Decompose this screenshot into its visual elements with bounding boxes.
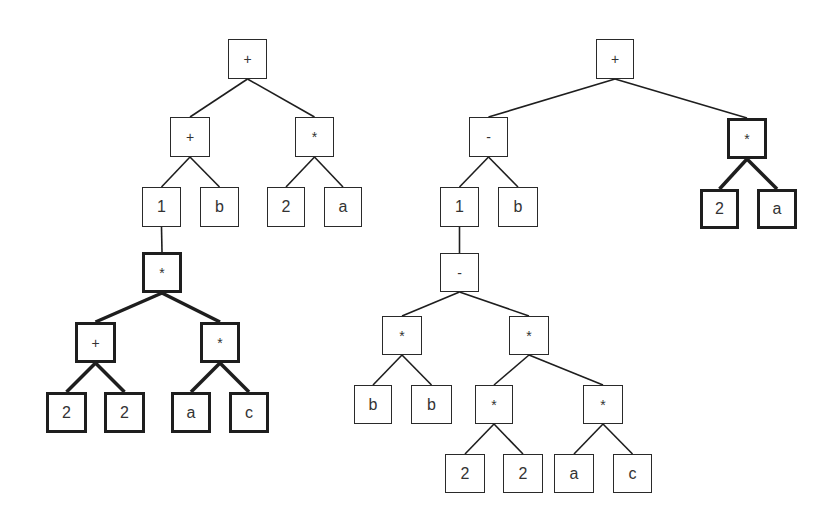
operator-node: + — [596, 39, 634, 79]
tree-edge — [190, 157, 220, 187]
tree-edge — [402, 292, 460, 316]
operand-node: 2 — [104, 392, 145, 433]
tree-edge — [220, 363, 249, 392]
tree-edge — [162, 157, 191, 187]
tree-edge — [286, 157, 315, 187]
tree-edge — [96, 363, 125, 392]
operand-node: b — [411, 385, 452, 424]
operator-node: * — [727, 118, 767, 159]
operator-node: * — [295, 117, 334, 157]
operand-node: 2 — [46, 392, 87, 433]
operand-node: 1 — [440, 187, 479, 227]
operand-node: b — [354, 385, 392, 424]
operator-node: + — [75, 322, 116, 363]
tree-edge — [615, 79, 747, 118]
operator-node: + — [170, 117, 210, 157]
operand-node: 2 — [700, 189, 739, 229]
tree-edge — [67, 363, 96, 392]
tree-edge — [489, 79, 616, 117]
tree-edge — [720, 159, 748, 189]
tree-edge — [162, 227, 163, 252]
tree-edge — [603, 424, 633, 454]
tree-edge — [96, 293, 163, 322]
operator-node: * — [475, 385, 513, 424]
tree-edge — [315, 157, 344, 187]
operator-node: - — [469, 117, 508, 157]
operator-node: * — [200, 322, 240, 363]
operator-node: - — [440, 253, 479, 292]
operand-node: 2 — [267, 187, 305, 227]
tree-edge — [489, 157, 519, 187]
operand-node: 2 — [445, 454, 485, 493]
operand-node: a — [554, 454, 594, 493]
operator-node: * — [583, 385, 623, 424]
tree-edge — [460, 157, 489, 187]
tree-edge — [190, 79, 248, 117]
tree-edge — [747, 159, 777, 189]
operand-node: b — [498, 187, 538, 227]
operand-node: a — [171, 392, 211, 433]
operand-node: c — [229, 392, 269, 433]
tree-edge — [373, 355, 402, 385]
tree-edge — [529, 355, 603, 385]
tree-edge — [248, 79, 315, 117]
operator-node: * — [509, 316, 549, 355]
operand-node: 2 — [503, 454, 543, 493]
tree-edge — [465, 424, 494, 454]
tree-edge — [402, 355, 432, 385]
operand-node: b — [200, 187, 239, 227]
operand-node: c — [613, 454, 652, 493]
tree-edge — [494, 424, 523, 454]
tree-edge — [494, 355, 529, 385]
operand-node: a — [757, 189, 797, 229]
tree-edges — [0, 0, 839, 520]
tree-edge — [460, 292, 530, 316]
tree-edge — [574, 424, 603, 454]
operand-node: a — [324, 187, 362, 227]
operand-node: 1 — [142, 187, 181, 227]
tree-edge — [191, 363, 220, 392]
expression-tree-canvas: ++*1b2a*+*22ac+-*1b2a-**bb**22ac — [0, 0, 839, 520]
operator-node: + — [228, 39, 267, 79]
tree-edge — [162, 293, 220, 322]
operator-node: * — [382, 316, 422, 355]
operator-node: * — [142, 252, 182, 293]
